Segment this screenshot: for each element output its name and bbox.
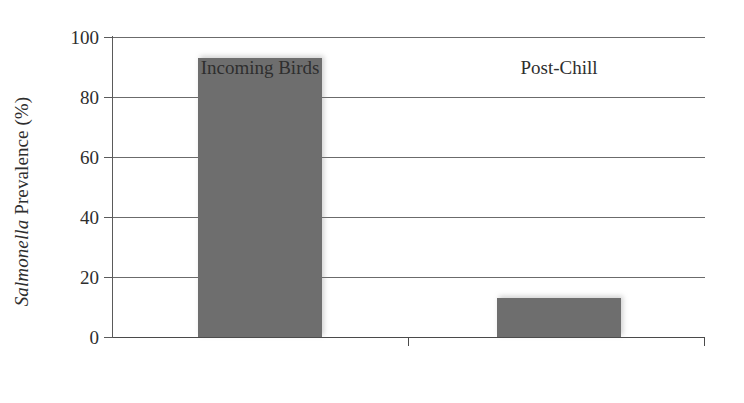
y-tick-0: [104, 337, 113, 338]
y-axis-title-species: Salmonella: [11, 215, 33, 307]
y-tick-label-40: 40: [80, 208, 99, 227]
y-tick-100: [104, 37, 113, 38]
gridline-100: [112, 37, 705, 38]
y-tick-40: [104, 217, 113, 218]
x-axis-end-tick: [704, 337, 705, 346]
y-tick-label-100: 100: [71, 28, 100, 47]
y-tick-label-20: 20: [80, 268, 99, 287]
y-tick-label-60: 60: [80, 148, 99, 167]
bar-chart-figure: SalmonellaPrevalence (%) 100 80 60 40: [0, 0, 744, 403]
x-axis-mid-tick: [408, 337, 409, 346]
plot-area: 100 80 60 40 20 0: [112, 37, 705, 337]
bar-post-chill[interactable]: [497, 298, 621, 337]
y-tick-20: [104, 277, 113, 278]
bar-incoming-birds[interactable]: [198, 58, 322, 337]
y-axis-title-rest: Prevalence (%): [11, 97, 33, 215]
x-tick-label-incoming-birds: Incoming Birds: [201, 57, 320, 79]
y-tick-label-0: 0: [90, 328, 100, 347]
y-tick-label-80: 80: [80, 88, 99, 107]
y-tick-80: [104, 97, 113, 98]
x-tick-label-post-chill: Post-Chill: [520, 57, 597, 79]
y-axis-title: SalmonellaPrevalence (%): [0, 0, 44, 403]
y-tick-60: [104, 157, 113, 158]
